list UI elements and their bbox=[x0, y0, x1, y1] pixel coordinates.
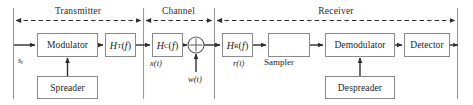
block-diagram-figure: Transmitter Channel Receiver Modulator H… bbox=[0, 0, 473, 105]
block-detector[interactable]: Detector bbox=[404, 33, 450, 57]
block-receive-filter-hr[interactable]: HR(f) bbox=[222, 33, 253, 57]
section-label-channel: Channel bbox=[143, 6, 214, 16]
section-label-transmitter: Transmitter bbox=[13, 6, 143, 16]
block-modulator[interactable]: Modulator bbox=[37, 33, 98, 57]
block-transmit-filter-ht[interactable]: HT(f) bbox=[105, 33, 136, 57]
section-label-receiver: Receiver bbox=[214, 6, 458, 16]
signal-label-x-t: x(t) bbox=[150, 58, 162, 68]
summing-junction bbox=[188, 37, 204, 53]
block-channel-filter-hc[interactable]: HC(f) bbox=[152, 33, 183, 57]
signal-label-r-t: r(t) bbox=[233, 58, 244, 68]
block-despreader[interactable]: Despreader bbox=[325, 76, 395, 99]
block-demodulator[interactable]: Demodulator bbox=[325, 33, 395, 57]
block-spreader[interactable]: Spreader bbox=[37, 76, 98, 99]
sampler-caption: Sampler bbox=[264, 57, 294, 67]
block-sampler[interactable] bbox=[268, 33, 310, 57]
signal-label-s-t: st bbox=[18, 55, 23, 65]
vertical-feed-arrows bbox=[68, 54, 361, 76]
signal-label-w-t: w(t) bbox=[188, 74, 202, 84]
